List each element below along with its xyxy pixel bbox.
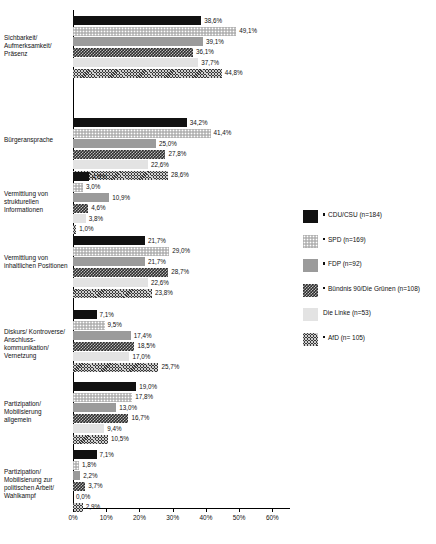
bar-value-label: 36,1% — [196, 48, 214, 56]
bar-value-label: 9,4% — [107, 425, 121, 433]
bar — [73, 289, 152, 298]
bar-value-label: 3,7% — [88, 482, 102, 490]
x-tick-label: 60% — [266, 514, 279, 522]
bar-value-label: 49,1% — [239, 27, 257, 35]
bar-value-label: 22,6% — [151, 279, 169, 287]
bar-row: 19,0% — [73, 382, 293, 391]
bar-row: 4,9% — [73, 172, 293, 181]
bar — [73, 204, 88, 213]
bar-value-label: 9,5% — [108, 321, 122, 329]
bar-value-label: 29,0% — [172, 247, 190, 255]
bar — [73, 363, 158, 372]
bar-value-label: 22,6% — [151, 161, 169, 169]
bar-row: 18,5% — [73, 342, 293, 351]
category-label: Bürgeransprache — [4, 136, 70, 144]
bar — [73, 247, 169, 256]
bar — [73, 183, 83, 192]
bar-row: 17,0% — [73, 352, 293, 361]
x-tick-label: 50% — [233, 514, 246, 522]
bar — [73, 27, 236, 36]
group-bars: 7,1%9,5%17,4%18,5%17,0%25,7% — [73, 310, 293, 374]
x-tick-mark — [139, 509, 140, 512]
bar — [73, 193, 109, 202]
bar — [73, 393, 132, 402]
bar — [73, 461, 79, 470]
bar-value-label: 17,8% — [135, 393, 153, 401]
x-tick-mark — [206, 509, 207, 512]
legend-swatch — [303, 333, 318, 346]
bar-value-label: 3,8% — [89, 215, 103, 223]
bar-row: 1,8% — [73, 461, 293, 470]
legend-swatch — [303, 210, 318, 223]
bar — [73, 160, 148, 169]
bar — [73, 16, 201, 25]
x-tick-mark — [272, 509, 273, 512]
legend-marker-icon — [323, 238, 325, 240]
bar-value-label: 19,0% — [139, 383, 157, 391]
bar-value-label: 10,5% — [111, 435, 129, 443]
bar-value-label: 34,2% — [190, 119, 208, 127]
x-tick-label: 40% — [200, 514, 213, 522]
chart-legend: CDU/CSU (n=184)SPD (n=169)FDP (n=92)Bünd… — [303, 210, 433, 357]
bar-value-label: 10,9% — [112, 194, 130, 202]
bar — [73, 236, 145, 245]
bar-row: 25,7% — [73, 363, 293, 372]
legend-swatch — [303, 308, 318, 321]
bar-row: 22,6% — [73, 278, 293, 287]
bar-row: 3,0% — [73, 183, 293, 192]
x-tick-label: 20% — [133, 514, 146, 522]
bar-value-label: 27,8% — [168, 150, 186, 158]
bar-row: 7,1% — [73, 310, 293, 319]
bar — [73, 278, 148, 287]
bar-value-label: 37,7% — [201, 59, 219, 67]
bar-row: 7,1% — [73, 450, 293, 459]
legend-label: CDU/CSU (n=184) — [328, 211, 431, 219]
bar-row: 22,6% — [73, 160, 293, 169]
bar-row: 37,7% — [73, 58, 293, 67]
bar-row: 9,5% — [73, 321, 293, 330]
bar-row: 49,1% — [73, 27, 293, 36]
bar-value-label: 21,7% — [148, 258, 166, 266]
bar-value-label: 4,6% — [91, 204, 105, 212]
x-tick-label: 0% — [68, 514, 77, 522]
bar-value-label: 0,0% — [76, 493, 90, 501]
legend-swatch — [303, 235, 318, 248]
bar — [73, 257, 145, 266]
legend-label: SPD (n=169) — [328, 236, 431, 244]
bar — [73, 58, 198, 67]
bar-row: 21,7% — [73, 236, 293, 245]
bar-row: 10,9% — [73, 193, 293, 202]
bar — [73, 403, 116, 412]
legend-item: CDU/CSU (n=184) — [303, 210, 433, 223]
x-tick-mark — [173, 509, 174, 512]
bar-value-label: 7,1% — [100, 451, 114, 459]
bar-value-label: 17,4% — [134, 332, 152, 340]
group-bars: 21,7%29,0%21,7%28,7%22,6%23,8% — [73, 236, 293, 300]
category-label: Vermittlung von inhaltlichen Positionen — [4, 254, 70, 270]
x-tick-mark — [239, 509, 240, 512]
bar-row: 29,0% — [73, 247, 293, 256]
legend-label: FDP (n=92) — [328, 260, 431, 268]
bar-value-label: 4,9% — [92, 173, 106, 181]
bar-row: 23,8% — [73, 289, 293, 298]
bar — [73, 450, 97, 459]
bar — [73, 352, 129, 361]
bar — [73, 471, 80, 480]
x-tick-label: 10% — [100, 514, 113, 522]
bar-row: 17,4% — [73, 331, 293, 340]
category-label: Partizipation/ Mobilisierung allgemein — [4, 400, 70, 425]
bar-row: 41,4% — [73, 129, 293, 138]
bar-value-label: 17,0% — [132, 353, 150, 361]
bar-row: 34,2% — [73, 118, 293, 127]
bar — [73, 48, 193, 57]
bar-value-label: 21,7% — [148, 237, 166, 245]
legend-swatch — [303, 284, 318, 297]
group-bars: 7,1%1,8%2,2%3,7%0,0%2,9% — [73, 450, 293, 514]
bar-value-label: 13,0% — [119, 404, 137, 412]
x-tick-mark — [106, 509, 107, 512]
legend-item: AfD (n= 105) — [303, 333, 433, 346]
bar — [73, 424, 104, 433]
bar — [73, 321, 105, 330]
bar-row: 2,2% — [73, 471, 293, 480]
bar — [73, 129, 211, 138]
